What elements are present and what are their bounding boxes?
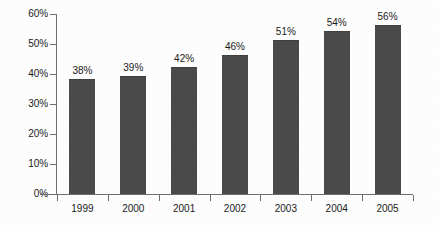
x-axis-tick	[311, 195, 312, 201]
y-axis-tick-label-text: 60%	[2, 9, 48, 19]
x-axis-line	[40, 194, 413, 195]
x-axis-category-label: 2002	[210, 203, 261, 214]
bar-group[interactable]: 56%	[362, 14, 413, 194]
bar-value-label: 39%	[123, 63, 143, 73]
bar-value-label: 56%	[378, 12, 398, 22]
bar-chart: 0%10%20%30%40%50%60% 38%39%42%46%51%54%5…	[0, 0, 439, 225]
bar-group[interactable]: 54%	[311, 14, 362, 194]
bar-value-label: 51%	[276, 27, 296, 37]
x-axis-category-label: 2005	[362, 203, 413, 214]
y-axis-tick-label: 20%	[0, 129, 48, 139]
x-axis-category-label: 2003	[260, 203, 311, 214]
bar[interactable]	[120, 76, 146, 194]
x-axis-tick	[57, 195, 58, 201]
bar[interactable]	[222, 55, 248, 194]
bar-group[interactable]: 38%	[57, 14, 108, 194]
bar-value-label: 54%	[327, 18, 347, 28]
x-axis-tick	[108, 195, 109, 201]
y-axis-tick-label-text: 30%	[2, 99, 48, 109]
bar-value-label: 38%	[72, 66, 92, 76]
x-axis-category-label: 1999	[57, 203, 108, 214]
bar-group[interactable]: 51%	[260, 14, 311, 194]
bar-value-label: 42%	[174, 54, 194, 64]
bar-group[interactable]: 42%	[159, 14, 210, 194]
x-axis-tick	[159, 195, 160, 201]
bar[interactable]	[69, 79, 95, 194]
y-axis-tick-label-text: 50%	[2, 39, 48, 49]
bar-value-label: 46%	[225, 42, 245, 52]
bar[interactable]	[375, 25, 401, 194]
x-axis-tick	[260, 195, 261, 201]
y-axis-tick-label: 50%	[0, 39, 48, 49]
y-axis-tick-label-text: 40%	[2, 69, 48, 79]
x-axis-tick	[362, 195, 363, 201]
x-axis-tick	[413, 195, 414, 201]
y-axis-tick-label-text: 10%	[2, 159, 48, 169]
y-axis-tick-label-text: 20%	[2, 129, 48, 139]
plot-area: 38%39%42%46%51%54%56%	[57, 14, 413, 194]
bar-group[interactable]: 39%	[108, 14, 159, 194]
bar[interactable]	[273, 40, 299, 194]
x-axis-category-label: 2004	[311, 203, 362, 214]
bar[interactable]	[324, 31, 350, 194]
bar-group[interactable]: 46%	[210, 14, 261, 194]
y-axis-tick-label: 60%	[0, 9, 48, 19]
x-axis-tick	[210, 195, 211, 201]
x-axis-category-label: 2001	[159, 203, 210, 214]
x-axis-category-label: 2000	[108, 203, 159, 214]
y-axis-tick-label: 30%	[0, 99, 48, 109]
bar[interactable]	[171, 67, 197, 194]
y-axis-tick-label: 10%	[0, 159, 48, 169]
y-axis-tick-label: 40%	[0, 69, 48, 79]
